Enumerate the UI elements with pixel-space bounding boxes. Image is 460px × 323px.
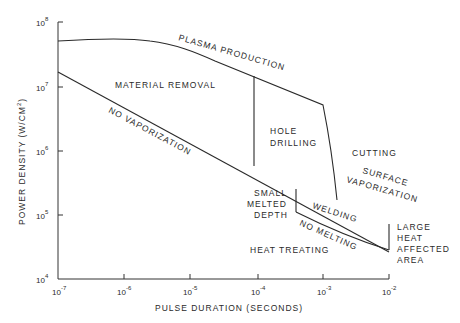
no-vaporization-boundary [58, 72, 389, 252]
label-welding: WELDING [311, 200, 358, 224]
x-tick-label: 10-7 [52, 285, 67, 297]
x-tick-labels: 10-7 10-6 10-5 10-4 10-3 10-2 [52, 285, 397, 297]
y-tick-label: 108 [36, 16, 49, 28]
label-hole: HOLE [270, 126, 297, 136]
x-tick-label: 10-4 [251, 285, 266, 297]
x-tick-label: 10-6 [117, 285, 132, 297]
laser-processing-chart: 108 107 106 105 104 10-7 10-6 10-5 10-4 … [0, 0, 460, 323]
label-affected: AFFECTED [397, 244, 450, 254]
label-material-removal: MATERIAL REMOVAL [115, 80, 216, 90]
label-large: LARGE [397, 222, 431, 232]
y-tick-label: 104 [36, 273, 49, 285]
x-tick-label: 10-3 [317, 285, 332, 297]
label-melted: MELTED [247, 199, 287, 209]
y-tick-label: 107 [36, 81, 49, 93]
label-no-vaporization: NO VAPORIZATION [107, 105, 193, 157]
y-tick-label: 106 [36, 145, 49, 157]
label-heat-treating: HEAT TREATING [250, 245, 329, 255]
y-tick-label: 105 [36, 209, 49, 221]
label-area: AREA [397, 255, 424, 265]
y-tick-labels: 108 107 106 105 104 [36, 16, 49, 285]
x-tick-label: 10-2 [382, 285, 397, 297]
label-drilling: DRILLING [270, 138, 317, 148]
plasma-production-boundary [58, 39, 337, 200]
label-cutting: CUTTING [352, 148, 397, 158]
y-axis-title: POWER DENSITY (W/CM2) [16, 98, 27, 225]
x-tick-label: 10-5 [183, 285, 198, 297]
label-heat: HEAT [397, 233, 423, 243]
x-axis-title: PULSE DURATION (SECONDS) [155, 303, 303, 313]
label-small: SMALL [254, 188, 287, 198]
label-depth: DEPTH [254, 210, 288, 220]
